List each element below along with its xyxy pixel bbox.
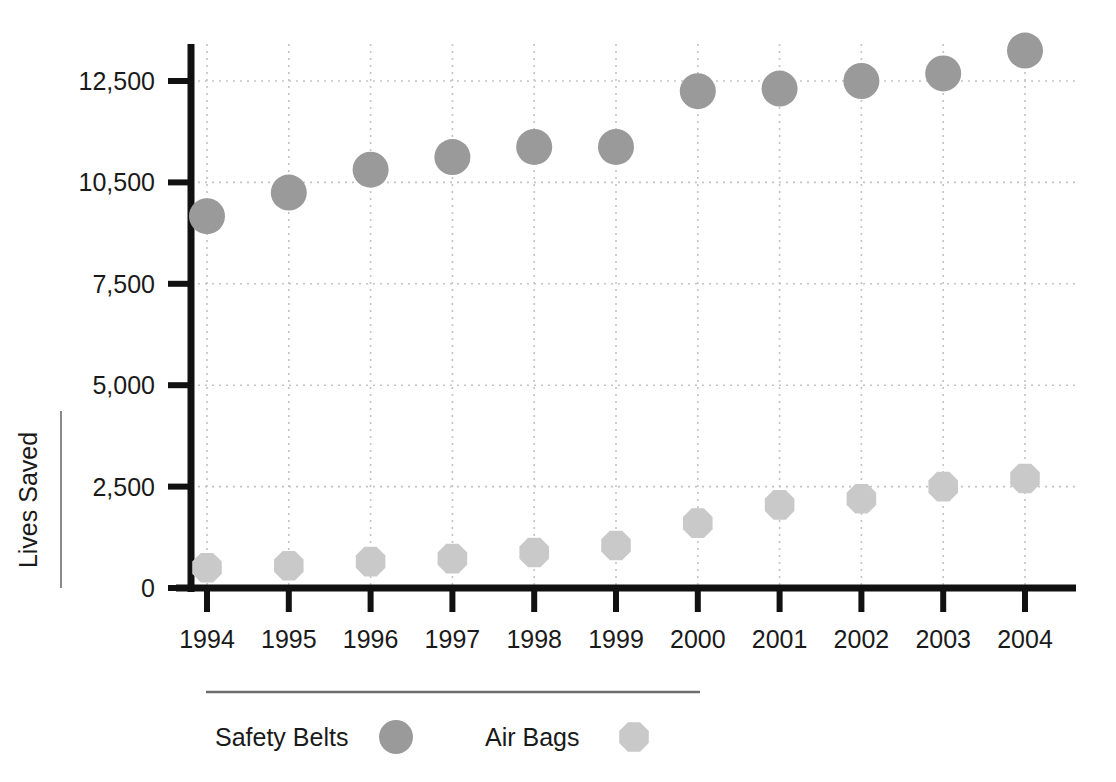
x-axis-tick-labels: 1994199519961997199819992000200120022003… bbox=[179, 625, 1053, 653]
data-point-marker bbox=[843, 63, 879, 99]
data-point-marker bbox=[847, 484, 877, 514]
y-axis-tick-label: 12,500 bbox=[79, 67, 155, 95]
vertical-gridlines bbox=[207, 44, 1025, 588]
legend-item-marker bbox=[379, 720, 413, 754]
data-point-marker bbox=[925, 55, 961, 91]
lives-saved-scatter-chart: 02,5005,0007,50010,50012,500 19941995199… bbox=[0, 0, 1116, 782]
x-axis-tick-label: 2004 bbox=[997, 625, 1053, 653]
y-axis-tick-labels: 02,5005,0007,50010,50012,500 bbox=[79, 67, 155, 602]
data-point-marker bbox=[601, 531, 631, 561]
x-axis-ticks bbox=[207, 588, 1025, 612]
legend-item-label: Safety Belts bbox=[215, 723, 348, 751]
x-axis-tick-label: 2001 bbox=[752, 625, 808, 653]
y-axis-tick-label: 7,500 bbox=[92, 270, 155, 298]
data-point-marker bbox=[356, 547, 386, 577]
legend-item-label: Air Bags bbox=[485, 723, 579, 751]
data-point-marker bbox=[762, 71, 798, 107]
x-axis-tick-label: 2000 bbox=[670, 625, 726, 653]
y-axis-title: Lives Saved bbox=[14, 432, 42, 568]
x-axis-tick-label: 2003 bbox=[915, 625, 971, 653]
data-point-marker bbox=[928, 472, 958, 502]
chart-legend: Safety BeltsAir Bags bbox=[215, 720, 649, 754]
x-axis-tick-label: 1996 bbox=[343, 625, 399, 653]
y-axis-tick-label: 2,500 bbox=[92, 473, 155, 501]
y-axis-tick-label: 5,000 bbox=[92, 371, 155, 399]
data-point-marker bbox=[680, 73, 716, 109]
data-point-marker bbox=[353, 152, 389, 188]
series-safety-belts-markers bbox=[189, 33, 1043, 235]
x-axis-tick-label: 1999 bbox=[588, 625, 644, 653]
data-point-marker bbox=[189, 198, 225, 234]
x-axis-tick-label: 2002 bbox=[834, 625, 890, 653]
data-point-marker bbox=[434, 139, 470, 175]
data-point-marker bbox=[1010, 464, 1040, 494]
data-point-marker bbox=[438, 544, 468, 574]
chart-container: 02,5005,0007,50010,50012,500 19941995199… bbox=[0, 0, 1116, 782]
data-point-marker bbox=[683, 508, 713, 538]
data-point-marker bbox=[598, 129, 634, 165]
series-air-bags-markers bbox=[192, 464, 1040, 583]
data-point-marker bbox=[1007, 33, 1043, 69]
y-axis-tick-label: 0 bbox=[141, 574, 155, 602]
data-point-marker bbox=[274, 551, 304, 581]
data-point-marker bbox=[519, 538, 549, 568]
x-axis-tick-label: 1997 bbox=[425, 625, 481, 653]
data-point-marker bbox=[516, 129, 552, 165]
x-axis-tick-label: 1994 bbox=[179, 625, 235, 653]
x-axis-tick-label: 1998 bbox=[506, 625, 562, 653]
data-point-marker bbox=[765, 490, 795, 520]
x-axis-tick-label: 1995 bbox=[261, 625, 317, 653]
data-point-marker bbox=[271, 175, 307, 211]
legend-item-marker bbox=[619, 722, 649, 752]
y-axis-tick-label: 10,500 bbox=[79, 168, 155, 196]
data-point-marker bbox=[192, 553, 222, 583]
